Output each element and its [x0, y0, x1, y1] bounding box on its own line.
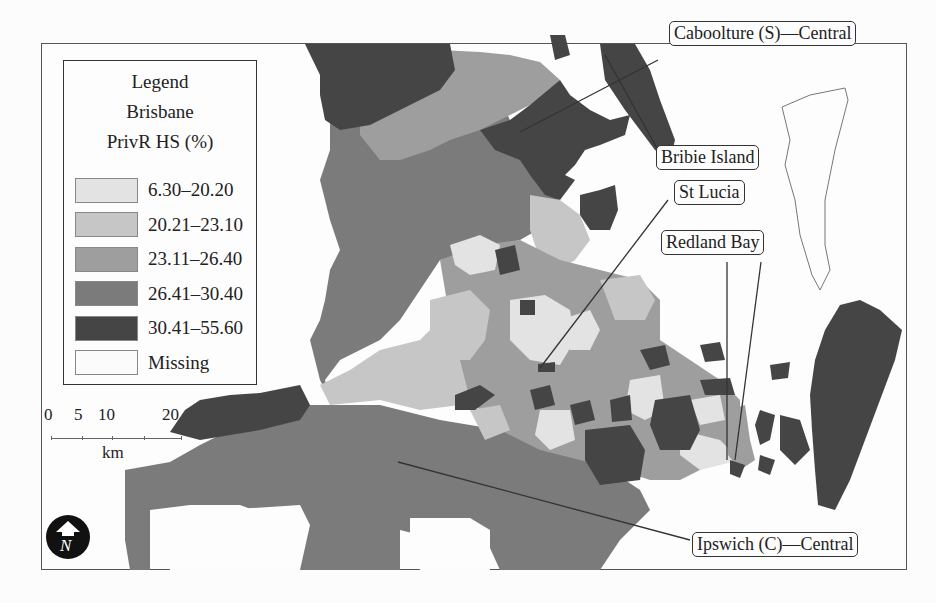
region-bribie: [600, 44, 675, 160]
legend-variable: PrivR HS (%): [64, 127, 256, 157]
legend-swatch: [75, 281, 138, 306]
legend-item: 20.21–23.10: [64, 208, 256, 243]
region-stradbroke: [810, 300, 902, 510]
legend-item: 26.41–30.40: [64, 277, 256, 312]
region-moreton-island: [782, 88, 848, 290]
legend-region: Brisbane: [64, 97, 256, 127]
legend-swatch: [75, 350, 138, 375]
north-arrow-icon: N: [46, 515, 90, 559]
legend-item: 6.30–20.20: [64, 173, 256, 208]
legend-box: Legend Brisbane PrivR HS (%) 6.30–20.20 …: [63, 60, 257, 385]
legend-swatch: [75, 316, 138, 341]
callout-st-lucia: St Lucia: [674, 180, 745, 205]
scale-bar: 0 5 10 20 km: [44, 405, 194, 465]
callout-ipswich: Ipswich (C)—Central: [692, 532, 858, 557]
callout-bribie-island: Bribie Island: [656, 145, 759, 170]
legend-item: 30.41–55.60: [64, 311, 256, 346]
callout-redland-bay: Redland Bay: [661, 230, 764, 255]
callout-caboolture: Caboolture (S)—Central: [669, 21, 856, 46]
legend-swatch: [75, 247, 138, 272]
scale-unit: km: [102, 443, 124, 463]
legend-swatch: [75, 212, 138, 237]
legend-item: 23.11–26.40: [64, 242, 256, 277]
legend-swatch: [75, 178, 138, 203]
legend-item: Missing: [64, 346, 256, 381]
legend-heading: Legend: [64, 67, 256, 97]
